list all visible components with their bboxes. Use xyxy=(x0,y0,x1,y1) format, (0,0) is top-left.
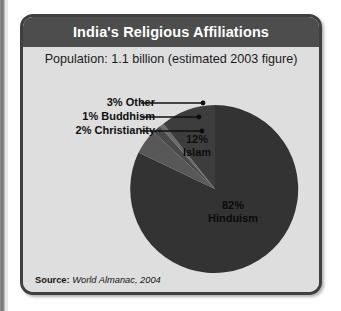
slice-label-hinduism-pct: 82% xyxy=(191,199,275,212)
chart-source-prefix: Source: xyxy=(35,275,70,285)
slice-callout-buddhism: 1% Buddhism xyxy=(23,110,155,122)
leader-dot-other xyxy=(201,101,206,106)
slice-callout-christianity: 2% Christianity xyxy=(23,124,155,136)
slice-label-islam-pct: 12% xyxy=(161,133,233,146)
chart-source-text: World Almanac, 2004 xyxy=(72,275,161,285)
slice-label-hinduism: 82% Hinduism xyxy=(191,199,275,225)
slice-label-islam: 12% Islam xyxy=(161,133,233,159)
leader-dot-buddhism xyxy=(197,115,202,120)
slice-label-islam-name: Islam xyxy=(161,146,233,159)
slice-label-hinduism-name: Hinduism xyxy=(191,212,275,225)
page-title: India's Religious Affiliations xyxy=(73,24,269,40)
chart-source: Source: World Almanac, 2004 xyxy=(35,275,161,285)
slice-callout-other: 3% Other xyxy=(23,96,155,108)
figure-card: India's Religious Affiliations Populatio… xyxy=(20,14,322,295)
page-gutter-inner xyxy=(5,0,8,311)
pie-chart xyxy=(23,47,319,292)
chart-title-bar: India's Religious Affiliations xyxy=(23,17,319,47)
chart-body: Population: 1.1 billion (estimated 2003 … xyxy=(23,47,319,292)
